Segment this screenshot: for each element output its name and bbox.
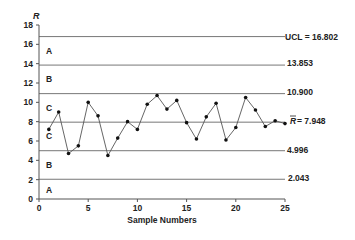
control-chart: 0246810121416180510152025 ABCCBA R Sampl… — [0, 0, 355, 240]
data-point — [254, 108, 258, 112]
y-tick-label: 2 — [28, 175, 33, 185]
data-point — [116, 136, 120, 140]
center-line-symbol: R — [290, 116, 297, 126]
zone-line-13853-label: 13.853 — [287, 58, 313, 68]
x-tick-label: 15 — [182, 203, 192, 213]
data-point — [204, 115, 208, 119]
data-point — [264, 125, 268, 129]
data-point — [47, 128, 51, 132]
y-tick-label: 0 — [28, 194, 33, 204]
zone-line-2043-label: 2.043 — [288, 173, 310, 183]
y-tick-label: 8 — [28, 117, 33, 127]
data-point — [175, 99, 179, 103]
x-axis-title: Sample Numbers — [127, 215, 197, 225]
zone-label: C — [46, 131, 52, 141]
zone-labels: ABCCBA — [46, 46, 52, 195]
data-point — [214, 102, 218, 106]
data-point — [234, 126, 238, 130]
y-tick-label: 6 — [28, 136, 33, 146]
reference-lines — [39, 37, 285, 180]
y-tick-label: 10 — [24, 97, 34, 107]
data-point — [106, 154, 110, 158]
data-point — [96, 114, 100, 118]
x-tick-label: 0 — [37, 203, 42, 213]
data-point — [283, 122, 287, 126]
x-tick-label: 10 — [133, 203, 143, 213]
zone-label: A — [46, 46, 52, 56]
y-tick-label: 16 — [24, 39, 34, 49]
data-point — [57, 110, 61, 114]
x-tick-label: 5 — [86, 203, 91, 213]
data-point — [126, 120, 130, 124]
data-point — [67, 152, 71, 156]
y-axis-title: R — [33, 11, 40, 21]
data-point — [224, 138, 228, 142]
y-tick-label: 18 — [24, 20, 34, 30]
zone-line-10900-label: 10.900 — [287, 87, 313, 97]
x-tick-label: 25 — [280, 203, 290, 213]
data-point — [195, 137, 199, 141]
ucl-label: UCL = 16.802 — [285, 32, 338, 42]
zone-label: C — [46, 103, 52, 113]
data-point — [136, 128, 140, 132]
y-tick-label: 4 — [28, 155, 33, 165]
y-tick-label: 12 — [24, 78, 34, 88]
series-line — [49, 96, 285, 156]
zone-label: B — [46, 74, 52, 84]
data-point — [77, 144, 81, 148]
y-tick-label: 14 — [24, 59, 34, 69]
data-point — [165, 107, 169, 111]
zone-label: A — [46, 185, 52, 195]
data-point — [86, 101, 90, 105]
axes: 0246810121416180510152025 — [24, 20, 290, 213]
data-series — [47, 94, 287, 158]
x-tick-label: 20 — [231, 203, 241, 213]
center-line-label: = 7.948 — [297, 116, 326, 126]
data-point — [155, 94, 159, 98]
data-point — [273, 119, 277, 123]
data-point — [185, 121, 189, 125]
zone-label: B — [46, 160, 52, 170]
data-point — [145, 102, 149, 106]
data-point — [244, 96, 248, 100]
zone-line-4996-label: 4.996 — [287, 145, 309, 155]
